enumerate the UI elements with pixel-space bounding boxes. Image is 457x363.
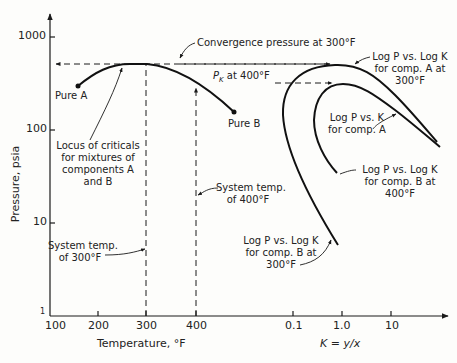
convergence-label: Convergence pressure at 300°F (197, 37, 356, 49)
log-p-vs-k-a-label: Log P vs. K for comp. A (325, 112, 389, 136)
y-axis (50, 14, 55, 316)
locus-curve (78, 64, 234, 112)
pure-b-point (232, 110, 237, 115)
x-tick-300: 300 (136, 320, 157, 332)
y-axis-label: Pressure, psia (10, 146, 22, 222)
log-b-400-label: Log P vs. Log K for comp. B at 400°F (355, 164, 445, 200)
x-tick-0.1: 0.1 (285, 320, 303, 332)
pk-400-label: PK at 400°F (213, 70, 270, 86)
log-a-300-label: Log P vs. Log K for comp. A at 300°F (368, 51, 452, 87)
y-tick-10: 10 (33, 216, 47, 228)
y-tick-100: 100 (26, 123, 47, 135)
x-tick-400: 400 (186, 320, 207, 332)
locus-label: Locus of criticals for mixtures of compo… (56, 140, 140, 188)
reference-lines (56, 64, 332, 316)
pure-a-label: Pure A (55, 90, 87, 102)
x-tick-100: 100 (45, 320, 66, 332)
x-axis-label-k: K = y/x (320, 338, 360, 350)
x-tick-1.0: 1.0 (333, 320, 351, 332)
x-tick-10: 10 (385, 320, 399, 332)
system-temp-300-label: System temp. of 300°F (48, 240, 112, 264)
curve-A-300-B-300 (283, 65, 437, 245)
y-tick-1: 1 (40, 306, 45, 318)
x-axis-label-temperature: Temperature, °F (97, 338, 186, 350)
x-tick-200: 200 (88, 320, 109, 332)
pure-b-label: Pure B (228, 118, 260, 130)
y-tick-1000: 1000 (18, 30, 46, 42)
system-temp-400-label: System temp. of 400°F (216, 182, 280, 206)
log-b-300-label: Log P vs. Log K for comp. B at 300°F (236, 235, 326, 271)
pure-a-point (76, 84, 81, 89)
x-axis (50, 311, 448, 316)
